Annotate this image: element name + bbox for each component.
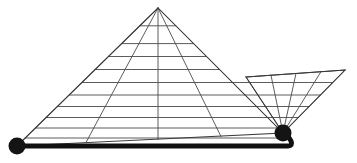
figure-canvas: [0, 0, 357, 163]
right-node-dot: [275, 125, 292, 142]
left-node-dot: [9, 138, 26, 155]
perspective-grid-drawing: [0, 0, 357, 163]
